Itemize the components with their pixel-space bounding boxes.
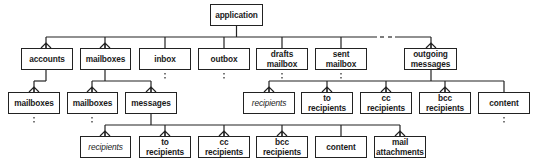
node-accounts: accounts xyxy=(21,48,73,70)
node-message-mail-attachments: mail attachments xyxy=(374,136,426,158)
node-outgoing-content: content xyxy=(478,92,530,114)
node-message-cc-recipients: cc recipients xyxy=(198,136,250,158)
node-message-recipients: recipients xyxy=(80,136,131,158)
node-message-to-recipients: to recipients xyxy=(139,136,191,158)
hierarchy-diagram: application accounts mailboxes inbox out… xyxy=(0,0,535,164)
node-inbox: inbox xyxy=(139,48,191,70)
node-outbox: outbox xyxy=(198,48,250,70)
node-accounts-mailboxes: mailboxes xyxy=(8,92,60,114)
node-message-bcc-recipients: bcc recipients xyxy=(256,136,308,158)
node-mailboxes-mailboxes: mailboxes xyxy=(67,92,118,114)
node-outgoing-messages: outgoing messages xyxy=(404,48,457,70)
node-mailboxes: mailboxes xyxy=(80,48,131,70)
node-outgoing-recipients: recipients xyxy=(243,92,295,114)
node-drafts-mailbox: drafts mailbox xyxy=(256,48,308,70)
node-sent-mailbox: sent mailbox xyxy=(315,48,367,70)
node-outgoing-cc-recipients: cc recipients xyxy=(360,92,412,114)
node-outgoing-to-recipients: to recipients xyxy=(301,92,353,114)
node-outgoing-bcc-recipients: bcc recipients xyxy=(419,92,471,114)
node-application: application xyxy=(210,4,263,26)
node-message-content: content xyxy=(315,136,367,158)
node-messages: messages xyxy=(125,92,177,114)
